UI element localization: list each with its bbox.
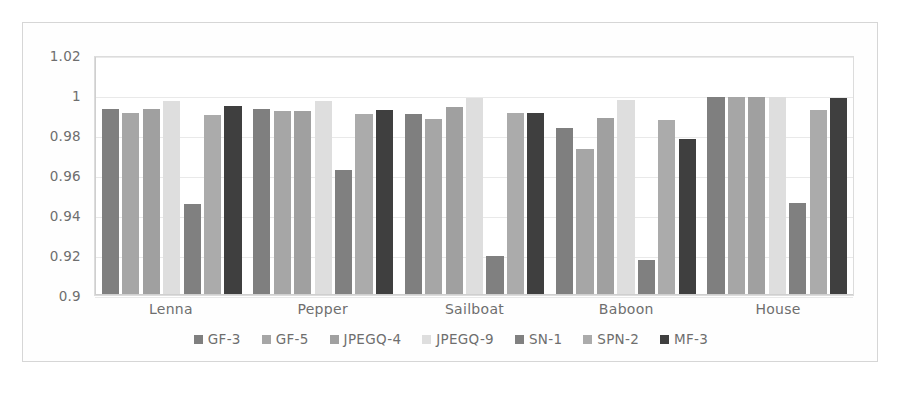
bar-spn-2-lenna[interactable] — [204, 115, 221, 294]
bar-mf-3-lenna[interactable] — [224, 106, 241, 294]
bar-spn-2-pepper[interactable] — [355, 114, 372, 294]
bar-spn-2-baboon[interactable] — [658, 120, 675, 294]
bar-sn-1-sailboat[interactable] — [486, 256, 503, 294]
bar-sn-1-house[interactable] — [789, 203, 806, 294]
bar-gf-5-baboon[interactable] — [576, 149, 593, 294]
y-axis-tick-label: 0.9 — [59, 288, 81, 304]
plot-wrapper — [94, 56, 854, 296]
bar-gf-3-sailboat[interactable] — [405, 114, 422, 294]
bar-gf-3-house[interactable] — [707, 97, 724, 294]
bar-slot — [161, 57, 181, 294]
bar-jpegq-9-baboon[interactable] — [617, 100, 634, 294]
bar-slot — [505, 57, 525, 294]
legend-item-gf-3[interactable]: GF-3 — [194, 331, 241, 347]
bar-slot — [464, 57, 484, 294]
bar-slot — [767, 57, 787, 294]
bar-gf-5-lenna[interactable] — [122, 113, 139, 294]
bar-slot — [595, 57, 615, 294]
bar-spn-2-sailboat[interactable] — [507, 113, 524, 294]
x-axis-tick-label: Baboon — [550, 301, 702, 323]
bar-jpegq-4-baboon[interactable] — [597, 118, 614, 294]
bar-gf-5-sailboat[interactable] — [425, 119, 442, 294]
legend-swatch-icon — [583, 335, 592, 344]
bar-mf-3-house[interactable] — [830, 98, 847, 294]
legend-swatch-icon — [660, 335, 669, 344]
bar-gf-3-lenna[interactable] — [102, 109, 119, 294]
bar-jpegq-9-sailboat[interactable] — [466, 98, 483, 294]
legend-item-jpegq-9[interactable]: JPEGQ-9 — [422, 331, 494, 347]
bar-sn-1-pepper[interactable] — [335, 170, 352, 294]
bar-group — [702, 57, 853, 294]
bar-slot — [444, 57, 464, 294]
gridline — [95, 297, 853, 298]
chart-legend: GF-3GF-5JPEGQ-4JPEGQ-9SN-1SPN-2MF-3 — [23, 331, 879, 347]
legend-item-sn-1[interactable]: SN-1 — [515, 331, 562, 347]
bar-slot — [706, 57, 726, 294]
bar-slot — [636, 57, 656, 294]
legend-label: SPN-2 — [597, 331, 639, 347]
y-axis-tick-label: 0.98 — [50, 128, 81, 144]
bar-mf-3-baboon[interactable] — [679, 139, 696, 294]
bar-slot — [202, 57, 222, 294]
legend-label: MF-3 — [674, 331, 708, 347]
x-axis-line — [95, 294, 853, 295]
bar-slot — [554, 57, 574, 294]
bar-slot — [223, 57, 243, 294]
bar-slot — [252, 57, 272, 294]
legend-swatch-icon — [330, 335, 339, 344]
bar-slot — [100, 57, 120, 294]
bar-group — [96, 57, 247, 294]
bar-group — [399, 57, 550, 294]
x-axis-tick-label: Pepper — [247, 301, 399, 323]
bar-slot — [788, 57, 808, 294]
bar-gf-3-pepper[interactable] — [253, 109, 270, 294]
bar-gf-5-pepper[interactable] — [274, 111, 291, 294]
y-axis-tick-label: 0.92 — [50, 248, 81, 264]
bar-slot — [747, 57, 767, 294]
legend-swatch-icon — [194, 335, 203, 344]
bar-jpegq-9-house[interactable] — [769, 97, 786, 294]
legend-item-gf-5[interactable]: GF-5 — [262, 331, 309, 347]
y-axis-tick-label: 1 — [72, 88, 81, 104]
bar-slot — [292, 57, 312, 294]
bar-slot — [808, 57, 828, 294]
legend-label: JPEGQ-4 — [344, 331, 402, 347]
bar-jpegq-4-pepper[interactable] — [294, 111, 311, 294]
bar-jpegq-4-sailboat[interactable] — [446, 107, 463, 294]
bar-sn-1-lenna[interactable] — [184, 204, 201, 294]
bar-jpegq-9-lenna[interactable] — [163, 101, 180, 294]
y-axis-tick-label: 0.96 — [50, 168, 81, 184]
bar-groups — [96, 57, 853, 294]
bar-slot — [313, 57, 333, 294]
bar-slot — [374, 57, 394, 294]
bar-sn-1-baboon[interactable] — [638, 260, 655, 294]
legend-label: SN-1 — [529, 331, 562, 347]
bar-slot — [616, 57, 636, 294]
legend-item-spn-2[interactable]: SPN-2 — [583, 331, 639, 347]
bar-slot — [526, 57, 546, 294]
bar-slot — [677, 57, 697, 294]
bar-slot — [182, 57, 202, 294]
bar-gf-5-house[interactable] — [728, 97, 745, 294]
bar-jpegq-9-pepper[interactable] — [315, 101, 332, 294]
bar-slot — [485, 57, 505, 294]
bar-mf-3-sailboat[interactable] — [527, 113, 544, 294]
legend-swatch-icon — [262, 335, 271, 344]
legend-item-mf-3[interactable]: MF-3 — [660, 331, 708, 347]
bar-slot — [121, 57, 141, 294]
bar-mf-3-pepper[interactable] — [376, 110, 393, 294]
bar-slot — [333, 57, 353, 294]
bar-jpegq-4-lenna[interactable] — [143, 109, 160, 294]
y-axis-tick-label: 1.02 — [50, 48, 81, 64]
bar-slot — [272, 57, 292, 294]
bar-spn-2-house[interactable] — [810, 110, 827, 294]
legend-item-jpegq-4[interactable]: JPEGQ-4 — [330, 331, 402, 347]
bar-group — [247, 57, 398, 294]
legend-label: GF-3 — [208, 331, 241, 347]
legend-label: JPEGQ-9 — [436, 331, 494, 347]
bar-slot — [828, 57, 848, 294]
y-axis-labels: 1.0210.980.960.940.920.9 — [23, 56, 89, 296]
bar-gf-3-baboon[interactable] — [556, 128, 573, 294]
bar-jpegq-4-house[interactable] — [748, 97, 765, 294]
bar-slot — [403, 57, 423, 294]
